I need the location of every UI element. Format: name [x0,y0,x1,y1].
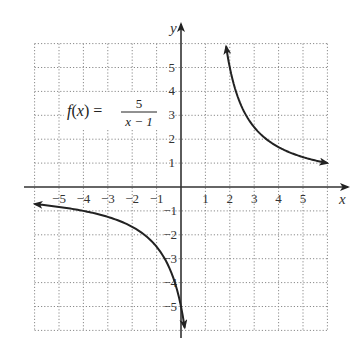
y-tick-label: 2 [169,131,176,146]
formula-lhs: f(x) = [67,102,102,120]
y-tick-label: −2 [163,227,177,242]
formula-numerator: 5 [136,96,143,111]
y-tick-label: 1 [169,155,176,170]
y-tick-label: −5 [163,299,177,314]
x-axis-label: x [338,191,346,207]
x-tick-label: −2 [125,191,139,206]
curve-right-branch [226,46,327,163]
y-tick-label: −1 [163,203,177,218]
x-tick-label: 4 [275,191,282,206]
x-tick-label: 5 [300,191,307,206]
y-tick-label: 5 [169,60,176,75]
y-axis-label: y [168,20,177,36]
x-tick-label: 1 [202,191,209,206]
x-tick-label: −1 [150,191,164,206]
x-tick-label: −4 [76,191,90,206]
y-tick-label: 3 [169,107,176,122]
function-formula: f(x) = 5 x − 1 [64,92,168,129]
y-tick-label: 4 [169,83,176,98]
x-tick-label: −5 [52,191,66,206]
axes [24,24,348,338]
curve-left-branch [35,204,185,328]
function-graph: −5−4−3−2−11234512345−1−2−3−4−5 y x f(x) … [0,0,361,343]
x-tick-label: 2 [227,191,234,206]
x-tick-label: −3 [101,191,115,206]
x-tick-label: 3 [251,191,258,206]
formula-denominator: x − 1 [124,114,153,129]
